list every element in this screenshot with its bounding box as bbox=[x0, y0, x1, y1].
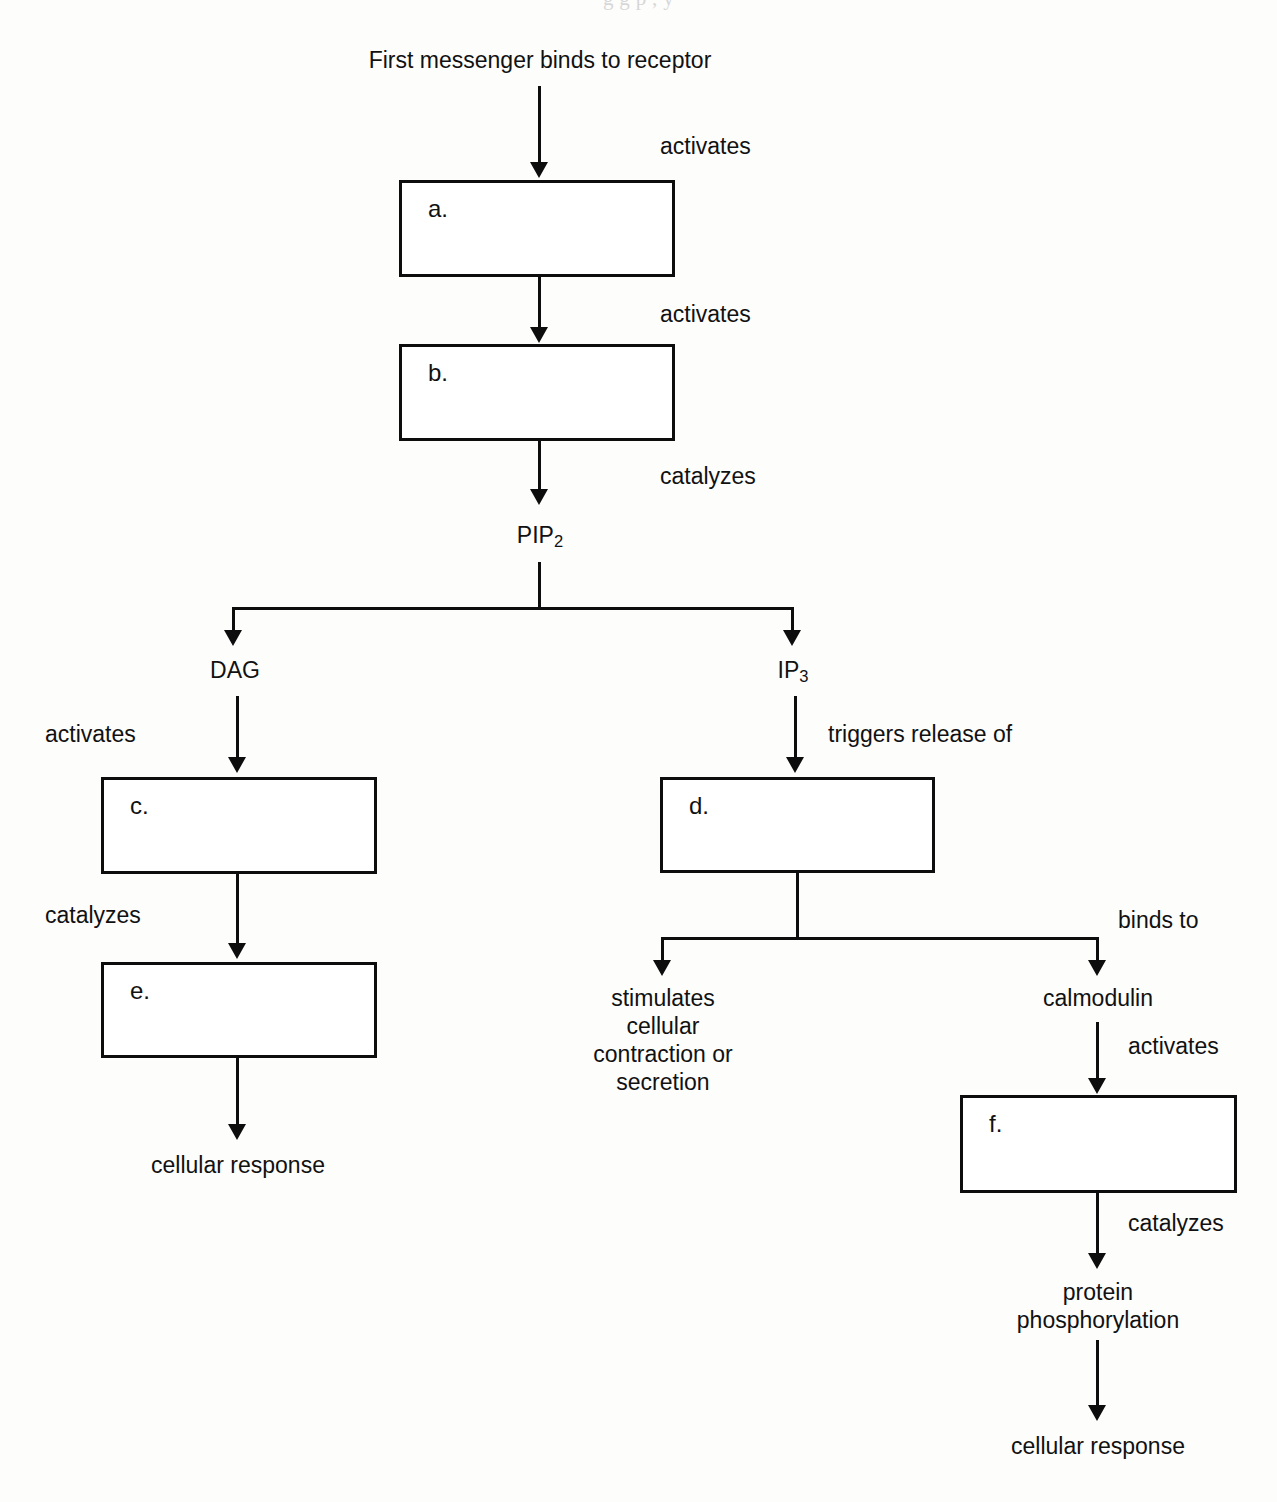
edge-label-activates-1: activates bbox=[660, 132, 751, 160]
answer-box-f[interactable]: f. bbox=[960, 1095, 1237, 1193]
edge-arrowhead-a-to-b bbox=[530, 327, 548, 343]
edge-line-d-split bbox=[661, 937, 1099, 940]
edge-line-dag-to-c bbox=[236, 696, 239, 758]
answer-box-d-label: d. bbox=[689, 792, 709, 820]
edge-label-catalyzes-1: catalyzes bbox=[660, 462, 756, 490]
edge-label-catalyzes-right: catalyzes bbox=[1128, 1209, 1224, 1237]
edge-label-activates-2: activates bbox=[660, 300, 751, 328]
answer-box-a-label: a. bbox=[428, 195, 448, 223]
edge-line-e-to-response bbox=[236, 1058, 239, 1126]
answer-box-c[interactable]: c. bbox=[101, 777, 377, 874]
edge-line-c-to-e bbox=[236, 874, 239, 944]
edge-arrowhead-e-to-response bbox=[228, 1124, 246, 1140]
edge-line-d-stem bbox=[796, 873, 799, 939]
answer-box-c-label: c. bbox=[130, 792, 149, 820]
answer-box-e[interactable]: e. bbox=[101, 962, 377, 1058]
node-protein-phosphorylation: protein phosphorylation bbox=[938, 1278, 1258, 1334]
edge-line-f-to-phosphorylation bbox=[1096, 1193, 1099, 1255]
edge-arrowhead-calmodulin-to-f bbox=[1088, 1078, 1106, 1094]
edge-arrowhead-to-calmodulin bbox=[1088, 960, 1106, 976]
edge-line-messenger-to-a bbox=[538, 86, 541, 164]
edge-label-catalyzes-left: catalyzes bbox=[45, 901, 141, 929]
node-stimulates-block: stimulates cellular contraction or secre… bbox=[513, 984, 813, 1096]
edge-arrowhead-messenger-to-a bbox=[530, 162, 548, 178]
edge-arrowhead-to-ip3 bbox=[783, 630, 801, 646]
node-pip2-text: PIP bbox=[517, 522, 554, 548]
node-pip2: PIP2 bbox=[517, 521, 563, 552]
edge-line-pip2-stem bbox=[538, 562, 541, 610]
edge-line-b-to-pip2 bbox=[538, 441, 541, 491]
node-cellular-response-left: cellular response bbox=[151, 1151, 325, 1179]
edge-label-activates-dag: activates bbox=[45, 720, 136, 748]
edge-line-ip3-to-d bbox=[794, 696, 797, 758]
node-stimulates-line-4: secretion bbox=[513, 1068, 813, 1096]
node-ip3: IP3 bbox=[778, 656, 809, 687]
node-pip2-subscript: 2 bbox=[554, 532, 563, 551]
node-protein-phosphorylation-line-2: phosphorylation bbox=[938, 1306, 1258, 1334]
answer-box-e-label: e. bbox=[130, 977, 150, 1005]
edge-arrowhead-ip3-to-d bbox=[786, 757, 804, 773]
node-cellular-response-right: cellular response bbox=[1011, 1432, 1185, 1460]
node-ip3-text: IP bbox=[778, 657, 800, 683]
edge-line-phosphorylation-to-response bbox=[1096, 1340, 1099, 1407]
node-stimulates-line-2: cellular bbox=[513, 1012, 813, 1040]
answer-box-b[interactable]: b. bbox=[399, 344, 675, 441]
node-calmodulin: calmodulin bbox=[1043, 984, 1153, 1012]
edge-arrowhead-f-to-phosphorylation bbox=[1088, 1253, 1106, 1269]
answer-box-b-label: b. bbox=[428, 359, 448, 387]
edge-line-pip2-split bbox=[232, 607, 794, 610]
edge-label-activates-calmodulin: activates bbox=[1128, 1032, 1219, 1060]
node-protein-phosphorylation-line-1: protein bbox=[938, 1278, 1258, 1306]
edge-line-a-to-b bbox=[538, 277, 541, 329]
answer-box-d[interactable]: d. bbox=[660, 777, 935, 873]
edge-arrowhead-dag-to-c bbox=[228, 757, 246, 773]
node-first-messenger: First messenger binds to receptor bbox=[369, 46, 712, 74]
node-stimulates-line-1: stimulates bbox=[513, 984, 813, 1012]
cropped-text-remnant: g g p , y bbox=[0, 0, 1277, 11]
node-stimulates-line-3: contraction or bbox=[513, 1040, 813, 1068]
edge-arrowhead-to-dag bbox=[224, 630, 242, 646]
answer-box-a[interactable]: a. bbox=[399, 180, 675, 277]
edge-arrowhead-b-to-pip2 bbox=[530, 489, 548, 505]
edge-label-binds-to: binds to bbox=[1118, 906, 1199, 934]
edge-arrowhead-c-to-e bbox=[228, 943, 246, 959]
edge-label-triggers-release: triggers release of bbox=[828, 720, 1012, 748]
edge-arrowhead-to-stimulates bbox=[653, 960, 671, 976]
answer-box-f-label: f. bbox=[989, 1110, 1002, 1138]
flowchart-canvas: g g p , y First messenger binds to recep… bbox=[0, 0, 1277, 1502]
edge-line-calmodulin-to-f bbox=[1096, 1022, 1099, 1080]
node-ip3-subscript: 3 bbox=[799, 667, 808, 686]
edge-arrowhead-phosphorylation-to-response bbox=[1088, 1405, 1106, 1421]
node-dag: DAG bbox=[210, 656, 260, 684]
